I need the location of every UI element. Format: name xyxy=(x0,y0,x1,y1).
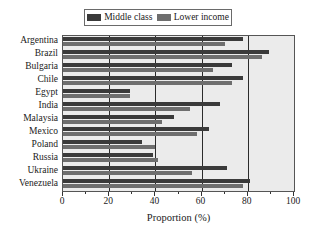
chart-legend: Middle class Lower income xyxy=(84,9,232,26)
bar-lower-income xyxy=(63,68,213,72)
bar-middle-class xyxy=(63,63,232,67)
category-label-bulgaria: Bulgaria xyxy=(25,62,58,72)
legend-label-lower-income: Lower income xyxy=(174,13,229,23)
bar-middle-class xyxy=(63,50,269,54)
x-axis-title: Proportion (%) xyxy=(62,213,295,224)
category-label-russia: Russia xyxy=(33,153,58,163)
category-label-malaysia: Malaysia xyxy=(23,114,58,124)
chart-page: Middle class Lower income ArgentinaBrazi… xyxy=(0,0,316,237)
bar-lower-income xyxy=(63,107,190,111)
bar-row xyxy=(63,101,294,114)
bar-middle-class xyxy=(63,153,153,157)
legend-entry-lower-income: Lower income xyxy=(157,13,229,23)
bar-row xyxy=(63,62,294,75)
x-tick-label-40: 40 xyxy=(150,197,160,207)
category-label-mexico: Mexico xyxy=(29,127,58,137)
legend-swatch-lower-income xyxy=(157,14,171,21)
bar-row xyxy=(63,88,294,101)
x-tick-label-20: 20 xyxy=(103,197,113,207)
bar-lower-income xyxy=(63,158,158,162)
category-label-chile: Chile xyxy=(37,75,58,85)
bar-middle-class xyxy=(63,102,220,106)
bar-lower-income xyxy=(63,145,155,149)
category-label-india: India xyxy=(38,101,58,111)
bar-middle-class xyxy=(63,76,243,80)
bar-lower-income xyxy=(63,55,262,59)
category-label-argentina: Argentina xyxy=(20,36,58,46)
bar-row xyxy=(63,139,294,152)
category-label-egypt: Egypt xyxy=(35,88,58,98)
bar-middle-class xyxy=(63,166,227,170)
bar-middle-class xyxy=(63,140,142,144)
x-tick-label-80: 80 xyxy=(242,197,252,207)
bar-lower-income xyxy=(63,184,243,188)
bar-lower-income xyxy=(63,81,232,85)
bar-lower-income xyxy=(63,94,130,98)
category-label-poland: Poland xyxy=(32,140,58,150)
legend-swatch-middle-class xyxy=(87,14,101,21)
bar-row xyxy=(63,36,294,49)
x-minor-tick-30 xyxy=(131,192,132,194)
x-tick-label-0: 0 xyxy=(60,197,65,207)
legend-entry-middle-class: Middle class xyxy=(87,13,152,23)
x-minor-tick-50 xyxy=(178,192,179,194)
bar-rows xyxy=(63,36,294,191)
legend-label-middle-class: Middle class xyxy=(104,13,152,23)
category-label-ukraine: Ukraine xyxy=(27,166,58,176)
bar-row xyxy=(63,114,294,127)
x-minor-tick-90 xyxy=(270,192,271,194)
category-axis-labels: ArgentinaBrazilBulgariaChileEgyptIndiaMa… xyxy=(0,35,60,192)
x-minor-tick-70 xyxy=(224,192,225,194)
bar-row xyxy=(63,75,294,88)
category-label-venezuela: Venezuela xyxy=(19,179,58,189)
bar-row xyxy=(63,126,294,139)
plot-area xyxy=(62,35,295,192)
x-tick-label-60: 60 xyxy=(196,197,206,207)
bar-middle-class xyxy=(63,37,243,41)
bar-row xyxy=(63,178,294,191)
x-minor-tick-10 xyxy=(85,192,86,194)
bar-row xyxy=(63,152,294,165)
bar-middle-class xyxy=(63,115,174,119)
bar-middle-class xyxy=(63,179,250,183)
bar-lower-income xyxy=(63,132,197,136)
x-tick-label-100: 100 xyxy=(286,197,300,207)
bar-middle-class xyxy=(63,89,130,93)
bar-row xyxy=(63,49,294,62)
bar-lower-income xyxy=(63,171,192,175)
bar-row xyxy=(63,165,294,178)
bar-middle-class xyxy=(63,127,209,131)
category-label-brazil: Brazil xyxy=(35,49,58,59)
bar-lower-income xyxy=(63,42,225,46)
bar-lower-income xyxy=(63,120,162,124)
x-axis: 020406080100 xyxy=(62,192,295,212)
